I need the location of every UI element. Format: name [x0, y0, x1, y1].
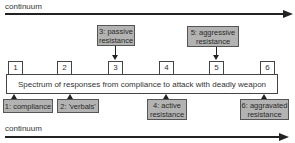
- top-continuum-label: continuum: [5, 2, 42, 11]
- arrow-down-icon: [213, 55, 219, 60]
- marker-1: 1: [8, 61, 23, 75]
- marker-5: 5: [209, 61, 224, 75]
- bottom-continuum-arrow-icon: [279, 133, 289, 141]
- stage-3-passive-resistance: 3: passive resistance: [97, 25, 135, 46]
- stage-1-compliance: 1: compliance: [3, 99, 53, 113]
- arrow-down-icon: [112, 55, 118, 60]
- marker-2: 2: [57, 61, 72, 75]
- marker-6: 6: [260, 61, 275, 75]
- bottom-continuum-label: continuum: [5, 124, 42, 133]
- stage-6-aggravated-resistance: 6: aggravated resistance: [240, 99, 289, 120]
- top-continuum-line: [5, 13, 285, 15]
- top-continuum-arrow-icon: [283, 10, 293, 18]
- spectrum-box: Spectrum of responses from compliance to…: [6, 74, 278, 94]
- bottom-continuum-line: [5, 136, 281, 138]
- stage-2-verbals: 2: 'verbals': [57, 99, 99, 113]
- stage-4-active-resistance: 4: active resistance: [147, 99, 187, 120]
- marker-3: 3: [108, 61, 123, 75]
- marker-4: 4: [159, 61, 174, 75]
- stage-5-aggressive-resistance: 5: aggressive resistance: [187, 26, 239, 47]
